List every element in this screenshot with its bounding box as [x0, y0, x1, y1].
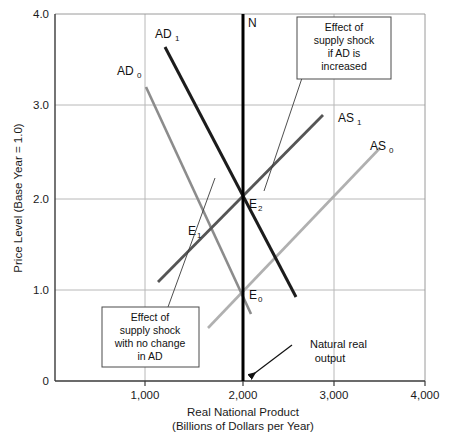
y-tick-label-4: 4.0 — [33, 8, 49, 20]
label-as1-base: AS — [338, 111, 354, 125]
y-tick-label-1: 1.0 — [33, 284, 49, 296]
x-tick-label-1000: 1,000 — [131, 389, 160, 401]
label-e0-base: E — [249, 288, 257, 302]
label-e2-base: E — [249, 197, 257, 211]
label-as1-sub: 1 — [357, 118, 362, 127]
label-ad1-sub: 1 — [175, 34, 180, 43]
x-axis-title-line1: Real National Product — [187, 406, 300, 418]
callout-increased-ad-line2: supply shock — [314, 34, 375, 46]
x-axis-title-line2: (Billions of Dollars per Year) — [172, 420, 314, 432]
x-tick-label-3000: 3,000 — [320, 389, 349, 401]
chart-canvas: 4.0 3.0 2.0 1.0 0 1,000 2,000 3,000 4,00… — [0, 0, 451, 442]
label-n: N — [248, 16, 257, 30]
x-tick-marks — [145, 381, 425, 386]
callout-no-change-ad-line4: in AD — [137, 350, 163, 362]
y-tick-label-2: 2.0 — [33, 193, 49, 205]
label-e1-sub: 1 — [197, 231, 202, 240]
callout-no-change-ad-line2: supply shock — [120, 324, 181, 336]
x-tick-label-4000: 4,000 — [411, 389, 440, 401]
label-as0-base: AS — [370, 139, 386, 153]
callout-increased-ad-line4: increased — [321, 60, 367, 72]
callout-increased-ad-line3: if AD is — [328, 47, 361, 59]
callout-no-change-ad-line3: with no change — [114, 337, 186, 349]
aggregate-supply-demand-chart: 4.0 3.0 2.0 1.0 0 1,000 2,000 3,000 4,00… — [0, 0, 451, 442]
label-e2-sub: 2 — [258, 204, 263, 213]
label-as0-sub: 0 — [389, 146, 394, 155]
label-ad1-base: AD — [155, 27, 172, 41]
label-ad0-sub: 0 — [137, 71, 142, 80]
label-e1-base: E — [188, 224, 196, 238]
annotation-natural-output-line1: Natural real — [310, 338, 367, 350]
y-axis-title: Price Level (Base Year = 1.0) — [12, 123, 24, 272]
label-ad0-base: AD — [117, 64, 134, 78]
callout-increased-ad-line1: Effect of — [325, 21, 363, 33]
annotation-natural-output-line2: output — [315, 352, 346, 364]
label-e0-sub: 0 — [258, 295, 263, 304]
callout-no-change-ad-line1: Effect of — [131, 311, 169, 323]
y-tick-label-0: 0 — [43, 375, 49, 387]
x-tick-label-2000: 2,000 — [229, 389, 258, 401]
y-tick-label-3: 3.0 — [33, 99, 49, 111]
